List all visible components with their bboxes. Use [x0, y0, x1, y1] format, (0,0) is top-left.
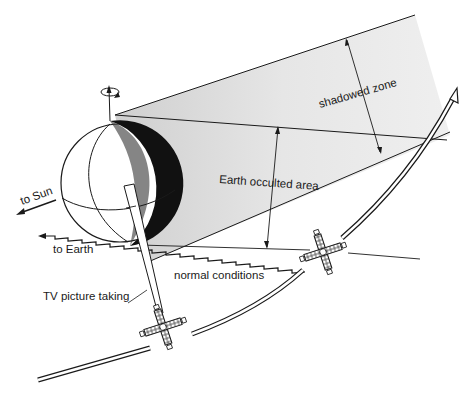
to-earth-label: to Earth	[53, 243, 93, 255]
to-sun-label: to Sun	[19, 184, 54, 207]
normal-conditions-label: normal conditions	[174, 269, 264, 281]
diagram-canvas: shadowed zone Earth occulted area to Sun…	[0, 0, 471, 394]
orbit-shadow-diagram: shadowed zone Earth occulted area to Sun…	[0, 0, 471, 394]
satellite-lower-icon	[133, 298, 193, 357]
to-earth-arrow	[38, 233, 420, 273]
tv-picture-taking-label: TV picture taking	[43, 290, 129, 302]
earth-sphere	[61, 120, 183, 246]
